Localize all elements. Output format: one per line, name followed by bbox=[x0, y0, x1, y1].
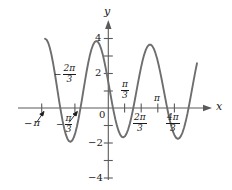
denominator: 3 bbox=[166, 124, 180, 133]
y-tick-label-neg-4: −4 bbox=[88, 173, 103, 183]
minus-sign: − bbox=[56, 120, 65, 129]
x-tick-label-neg-pi: −π bbox=[24, 118, 40, 129]
fraction-2pi-3: 2π 3 bbox=[133, 113, 147, 133]
x-axis-label: x bbox=[216, 101, 222, 112]
x-tick-label-4pi-over-3: 4π 3 bbox=[166, 113, 180, 133]
x-tick-label-neg-2pi-over-3: − 2π 3 bbox=[54, 64, 76, 84]
denominator: 3 bbox=[63, 75, 77, 84]
x-tick-label-pi-over-3: π 3 bbox=[121, 80, 129, 100]
x-tick-label-neg-pi-over-3: − π 3 bbox=[56, 114, 72, 134]
y-axis-arrowhead bbox=[105, 20, 111, 29]
denominator: 3 bbox=[121, 91, 129, 100]
x-axis bbox=[18, 104, 212, 113]
y-tick-label-2: 2 bbox=[95, 68, 101, 78]
x-tick-label-2pi-over-3: 2π 3 bbox=[133, 113, 147, 133]
numerator: π bbox=[65, 114, 73, 123]
graph-figure: y x 0 4 2 −2 −4 −π − 2π 3 − π 3 π 3 bbox=[0, 0, 232, 190]
fraction-4pi-3: 4π 3 bbox=[166, 113, 180, 133]
x-axis-arrowhead bbox=[203, 105, 212, 111]
denominator: 3 bbox=[65, 125, 73, 134]
y-tick-label-neg-2: −2 bbox=[88, 138, 103, 148]
y-tick-neg-4-value: 4 bbox=[96, 172, 102, 183]
y-tick-label-4: 4 bbox=[95, 33, 101, 43]
coordinate-plane bbox=[0, 0, 232, 190]
fraction-pi-3: π 3 bbox=[121, 80, 129, 100]
pi-symbol: π bbox=[33, 117, 40, 128]
numerator: 4π bbox=[166, 113, 180, 122]
numerator: 2π bbox=[63, 64, 77, 73]
y-tick-neg-2-value: 2 bbox=[96, 137, 102, 148]
origin-label: 0 bbox=[99, 110, 105, 120]
y-axis-label: y bbox=[104, 6, 110, 17]
minus-sign: − bbox=[24, 119, 33, 129]
minus-sign: − bbox=[54, 70, 63, 79]
x-tick-label-pi: π bbox=[154, 94, 160, 103]
denominator: 3 bbox=[133, 124, 147, 133]
numerator: 2π bbox=[133, 113, 147, 122]
fraction-pi-3: π 3 bbox=[65, 114, 73, 134]
fraction-2pi-3: 2π 3 bbox=[63, 64, 77, 84]
numerator: π bbox=[121, 80, 129, 89]
